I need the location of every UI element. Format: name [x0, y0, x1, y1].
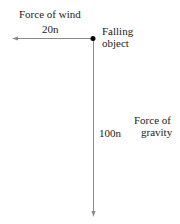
wind-force-magnitude: 20n [42, 23, 59, 35]
falling-object-dot [91, 36, 96, 41]
force-diagram: Force of wind 20n Falling object 100n Fo… [0, 0, 180, 224]
object-label-line2: object [102, 37, 129, 49]
object-label-line1: Falling [102, 25, 133, 37]
gravity-force-magnitude: 100n [99, 127, 121, 139]
diagram-graphics [0, 0, 180, 224]
wind-force-arrow [12, 37, 93, 41]
wind-force-label: Force of wind [19, 8, 81, 20]
gravity-force-label-line1: Force of [134, 114, 171, 126]
gravity-force-label-line2: gravity [141, 126, 172, 138]
gravity-force-arrow [92, 39, 96, 217]
